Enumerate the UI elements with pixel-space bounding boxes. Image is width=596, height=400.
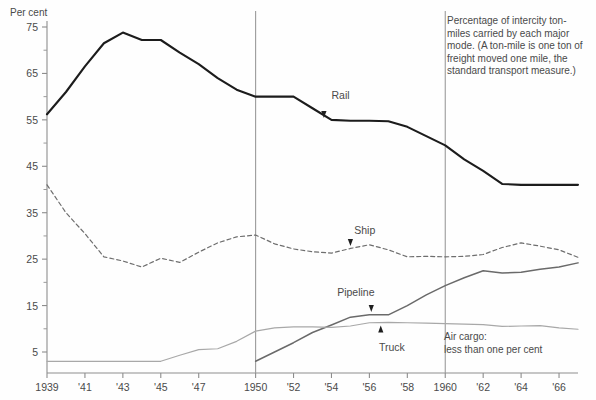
y-tick-label: 15 xyxy=(26,300,38,312)
x-tick-label: 1960 xyxy=(434,381,458,393)
air-cargo-note-line: less than one per cent xyxy=(444,344,543,355)
air-cargo-note: Air cargo:less than one per cent xyxy=(444,331,543,355)
y-tick-label: 45 xyxy=(26,160,38,172)
caption-line: freight moved one mile, the xyxy=(447,53,568,64)
x-tick-label: 1939 xyxy=(35,381,59,393)
series-label-text: Rail xyxy=(331,89,349,101)
x-tick-label: '47 xyxy=(192,381,206,393)
x-tick-label: '43 xyxy=(116,381,130,393)
series-label-text: Pipeline xyxy=(337,286,375,298)
x-tick-label: 1950 xyxy=(244,381,268,393)
x-tick-label: '52 xyxy=(287,381,301,393)
x-tick-label: '62 xyxy=(476,381,490,393)
caption-line: mode. (A ton-mile is one ton of xyxy=(447,40,583,51)
y-axis-title: Per cent xyxy=(10,7,47,18)
caption-line: Percentage of intercity ton- xyxy=(447,15,567,26)
series-label-arrow xyxy=(369,305,374,312)
x-tick-label: '54 xyxy=(325,381,339,393)
x-tick-label: '45 xyxy=(154,381,168,393)
y-tick-label: 5 xyxy=(32,346,38,358)
freight-mode-share-line-chart: Per cent5152535455565751939'41'43'45'471… xyxy=(0,0,596,400)
y-tick-label: 25 xyxy=(26,253,38,265)
y-tick-label: 65 xyxy=(26,67,38,79)
caption-line: miles carried by each major xyxy=(447,28,570,39)
x-tick-label: '58 xyxy=(400,381,414,393)
series-label-truck: Truck xyxy=(378,326,405,353)
series-label-text: Truck xyxy=(379,341,406,353)
y-tick-label: 35 xyxy=(26,207,38,219)
series-label-arrow xyxy=(378,326,383,333)
y-tick-label: 55 xyxy=(26,114,38,126)
chart-figure: Per cent5152535455565751939'41'43'45'471… xyxy=(0,0,596,400)
x-tick-label: '41 xyxy=(78,381,92,393)
series-line-ship xyxy=(47,185,578,267)
caption-block: Percentage of intercity ton-miles carrie… xyxy=(447,15,583,76)
x-tick-label: '66 xyxy=(552,381,566,393)
series-label-pipeline: Pipeline xyxy=(337,286,375,312)
x-tick-label: '64 xyxy=(514,381,528,393)
caption-line: standard transport measure.) xyxy=(447,65,576,76)
series-label-arrow xyxy=(348,239,353,246)
air-cargo-note-line: Air cargo: xyxy=(444,331,487,342)
series-label-rail: Rail xyxy=(321,89,349,118)
series-line-truck xyxy=(47,322,578,361)
y-tick-label: 75 xyxy=(26,21,38,33)
x-tick-label: '56 xyxy=(363,381,377,393)
series-label-text: Ship xyxy=(354,224,375,236)
series-label-ship: Ship xyxy=(348,224,376,246)
